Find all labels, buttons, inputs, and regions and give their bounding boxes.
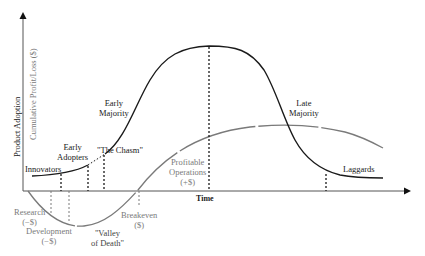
- label-late-majority-line1: Late: [289, 98, 319, 108]
- label-innovators: Innovators: [25, 164, 61, 174]
- label-research-line1: Research: [14, 207, 45, 217]
- label-profitable-line3: (+$): [169, 177, 206, 187]
- label-early-adopters: Early Adopters: [57, 142, 88, 162]
- y-axis-label-adoption: Product Adoption: [12, 97, 22, 157]
- label-profitable-line1: Profitable: [169, 157, 206, 167]
- x-axis-arrow-icon: [404, 188, 411, 195]
- label-research: Research (−$): [14, 207, 45, 227]
- label-the-chasm: "The Chasm": [97, 145, 143, 155]
- label-profitable-operations: Profitable Operations (+$): [169, 157, 206, 187]
- label-development-line2: (−$): [26, 236, 72, 246]
- label-late-majority: Late Majority: [289, 98, 319, 118]
- chasm-gap-segment: [88, 154, 105, 165]
- label-early-adopters-line2: Adopters: [57, 152, 88, 162]
- adoption-lifecycle-diagram: [0, 0, 425, 256]
- label-early-majority: Early Majority: [99, 98, 129, 118]
- label-development-line1: Development: [26, 226, 72, 236]
- label-early-adopters-line1: Early: [57, 142, 88, 152]
- label-laggards: Laggards: [343, 164, 375, 174]
- label-breakeven: Breakeven ($): [121, 210, 157, 230]
- label-breakeven-line2: ($): [121, 220, 157, 230]
- label-valley-line1: "Valley: [91, 228, 124, 238]
- label-late-majority-line2: Majority: [289, 108, 319, 118]
- y-axis-label-profit: Cumulative Profit/Loss ($): [28, 48, 38, 140]
- label-valley-of-death: "Valley of Death": [91, 228, 124, 248]
- label-profitable-line2: Operations: [169, 167, 206, 177]
- x-axis-label-time: Time: [196, 194, 214, 204]
- label-breakeven-line1: Breakeven: [121, 210, 157, 220]
- label-early-majority-line2: Majority: [99, 108, 129, 118]
- label-early-majority-line1: Early: [99, 98, 129, 108]
- label-valley-line2: of Death": [91, 238, 124, 248]
- y-axis-arrow-icon: [20, 12, 27, 19]
- label-development: Development (−$): [26, 226, 72, 246]
